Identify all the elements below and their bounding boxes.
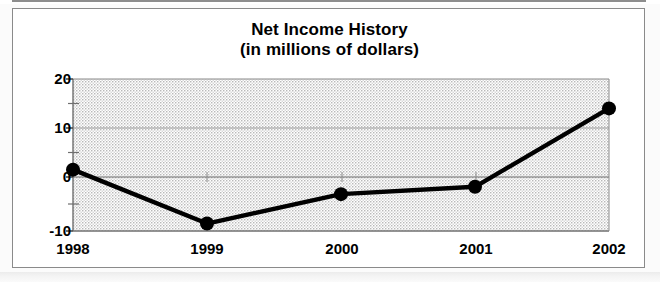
x-tick-label-2002: 2002 — [574, 241, 644, 256]
x-tick-label-2000: 2000 — [307, 241, 377, 256]
scanned-page: Net Income History (in millions of dolla… — [0, 0, 660, 282]
page-top-rule — [12, 0, 646, 2]
scan-bottom-margin — [0, 272, 660, 282]
x-tick-label-2001: 2001 — [441, 241, 511, 256]
x-axis-labels: 1998 1999 2000 2001 2002 — [13, 9, 646, 269]
chart-frame: Net Income History (in millions of dolla… — [12, 8, 645, 268]
x-tick-label-1999: 1999 — [172, 241, 242, 256]
x-tick-label-1998: 1998 — [38, 241, 108, 256]
